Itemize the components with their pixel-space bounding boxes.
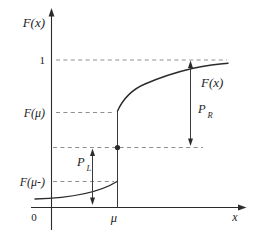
tick-label-f-mu: F(μ) <box>23 106 45 120</box>
figure-canvas: F(x) 1 F(μ) F(μ-) 0 μ x F(x) PR PL <box>0 0 261 241</box>
midpoint-dot <box>115 145 120 150</box>
p-left-label-sub: L <box>86 163 92 173</box>
p-left-arrowhead-down-icon <box>90 198 95 206</box>
origin-label: 0 <box>31 211 37 223</box>
p-left-label: PL <box>76 155 92 173</box>
y-axis-arrowhead-icon <box>49 8 55 17</box>
p-right-arrowhead-down-icon <box>188 139 193 147</box>
p-right-label-sub: R <box>207 110 214 120</box>
tick-label-f-mu-minus: F(μ-) <box>19 175 45 189</box>
p-left-label-base: P <box>76 155 85 169</box>
p-right-label-base: P <box>197 102 206 116</box>
p-right-arrowhead-up-icon <box>188 61 193 69</box>
mu-tick-label: μ <box>110 211 117 225</box>
cdf-jump-figure: F(x) 1 F(μ) F(μ-) 0 μ x F(x) PR PL <box>0 0 261 241</box>
cdf-curve-left-branch <box>35 182 117 200</box>
tick-label-one: 1 <box>40 54 46 66</box>
y-axis-title: F(x) <box>22 15 45 30</box>
x-axis-title: x <box>231 210 238 224</box>
p-right-label: PR <box>197 102 214 120</box>
curve-label: F(x) <box>200 75 223 90</box>
p-left-arrowhead-up-icon <box>90 149 95 157</box>
x-axis-arrowhead-icon <box>238 205 247 211</box>
